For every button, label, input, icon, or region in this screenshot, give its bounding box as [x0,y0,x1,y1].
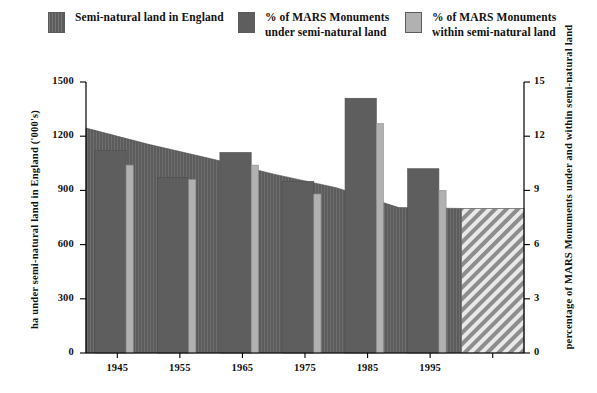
chart-canvas [0,0,597,393]
x-tick-label-1955: 1955 [150,362,210,373]
bar-monuments-under-1945 [95,151,126,353]
bar-monuments-under-1985 [345,98,376,353]
bar-monuments-under-1965 [220,152,251,353]
bar-monuments-under-1955 [157,178,188,353]
y-tick-label-left-900: 900 [34,183,74,194]
area-series-semi-natural-land [86,128,461,353]
y-tick-label-right-15: 15 [534,75,574,86]
plot-area: ha under semi-natural land in England ('… [0,0,597,393]
x-tick-label-1975: 1975 [275,362,335,373]
y-tick-label-right-0: 0 [534,346,574,357]
bar-monuments-within-1945 [126,165,133,353]
bar-monuments-under-1975 [282,181,313,353]
y-tick-label-right-12: 12 [534,129,574,140]
bar-monuments-within-1965 [251,165,258,353]
x-tick-label-1985: 1985 [338,362,398,373]
y-tick-label-right-6: 6 [534,238,574,249]
x-tick-label-1995: 1995 [400,362,460,373]
y-tick-label-left-1200: 1200 [34,129,74,140]
bar-monuments-within-1975 [314,194,321,353]
bar-monuments-within-1955 [189,180,196,353]
y-tick-label-left-1500: 1500 [34,75,74,86]
bar-monuments-under-1995 [408,169,439,353]
y-tick-label-left-600: 600 [34,238,74,249]
y-tick-label-left-300: 300 [34,292,74,303]
bar-monuments-within-1985 [376,124,383,353]
bar-monuments-within-1995 [439,190,446,353]
y-tick-label-right-3: 3 [534,292,574,303]
projection-block [461,208,524,353]
chart-figure: Semi-natural land in England % of MARS M… [0,0,597,393]
x-tick-label-1945: 1945 [87,362,147,373]
y-tick-label-left-0: 0 [34,346,74,357]
x-tick-label-1965: 1965 [212,362,272,373]
y-tick-label-right-9: 9 [534,183,574,194]
